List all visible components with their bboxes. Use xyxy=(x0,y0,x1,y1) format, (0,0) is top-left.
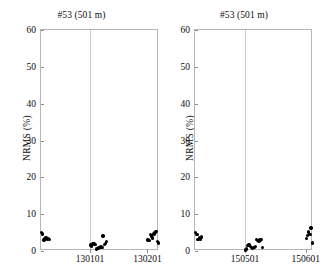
y-tick-label: 60 xyxy=(181,25,191,35)
chart-panel-left: #53 (501 m) NRMS (%) 0102030405060130101… xyxy=(0,0,163,275)
y-tick-label: 0 xyxy=(31,246,36,256)
y-tick-label: 60 xyxy=(27,25,37,35)
y-tick-mark xyxy=(195,141,198,142)
data-point xyxy=(105,240,108,243)
y-tick-label: 20 xyxy=(181,172,191,182)
y-tick-label: 20 xyxy=(27,172,37,182)
y-tick-label: 40 xyxy=(181,99,191,109)
data-point xyxy=(100,246,103,249)
y-tick-label: 30 xyxy=(27,136,37,146)
y-tick-mark xyxy=(41,141,44,142)
y-tick-label: 50 xyxy=(27,62,37,72)
x-tick-mark xyxy=(306,249,307,253)
y-tick-mark xyxy=(41,30,44,31)
y-tick-mark xyxy=(41,67,44,68)
panel-title-right: #53 (501 m) xyxy=(163,10,325,20)
plot-area-left: 0102030405060130101130201 xyxy=(40,29,158,250)
data-point xyxy=(200,235,203,238)
y-tick-mark xyxy=(41,251,44,252)
x-tick-mark xyxy=(147,249,148,253)
data-point xyxy=(101,234,104,237)
y-tick-label: 10 xyxy=(27,209,37,219)
data-point xyxy=(309,226,312,229)
data-point xyxy=(311,241,314,244)
y-tick-label: 30 xyxy=(181,136,191,146)
y-tick-label: 40 xyxy=(27,99,37,109)
y-tick-mark xyxy=(195,214,198,215)
y-tick-mark xyxy=(41,177,44,178)
chart-panel-right: #53 (501 m) NRMS (%) 0102030405060150501… xyxy=(163,0,325,275)
data-point xyxy=(308,233,311,236)
data-point xyxy=(305,237,308,240)
data-point xyxy=(48,238,51,241)
x-tick-label: 130101 xyxy=(76,254,105,264)
data-point xyxy=(254,245,257,248)
y-tick-mark xyxy=(195,104,198,105)
y-tick-mark xyxy=(195,30,198,31)
y-tick-label: 50 xyxy=(181,62,191,72)
data-point xyxy=(157,241,160,244)
vertical-gridline-right xyxy=(245,30,246,249)
data-point xyxy=(261,246,264,249)
x-tick-mark xyxy=(90,249,91,253)
y-tick-label: 0 xyxy=(185,246,190,256)
y-tick-mark xyxy=(41,214,44,215)
x-tick-label: 150601 xyxy=(291,254,320,264)
data-point xyxy=(245,247,248,250)
y-tick-mark xyxy=(195,67,198,68)
x-tick-label: 130201 xyxy=(133,254,162,264)
x-tick-label: 150501 xyxy=(231,254,260,264)
y-tick-mark xyxy=(195,251,198,252)
panel-title-left: #53 (501 m) xyxy=(0,10,163,20)
y-tick-mark xyxy=(195,177,198,178)
data-point xyxy=(151,236,154,239)
data-point xyxy=(260,238,263,241)
vertical-gridline-left xyxy=(90,30,91,249)
y-tick-mark xyxy=(41,104,44,105)
y-tick-label: 10 xyxy=(181,209,191,219)
data-point xyxy=(154,230,157,233)
plot-area-right: 0102030405060150501150601 xyxy=(194,29,312,250)
figure-canvas: #53 (501 m) NRMS (%) 0102030405060130101… xyxy=(0,0,325,275)
